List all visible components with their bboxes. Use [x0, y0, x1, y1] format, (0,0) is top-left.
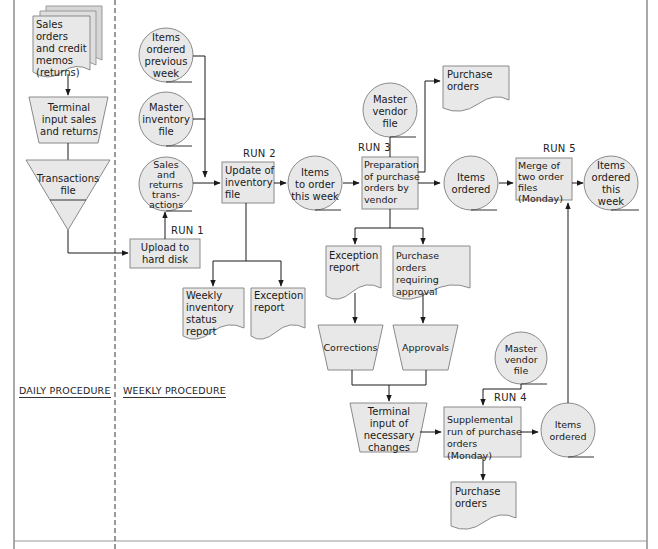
daily-procedure-heading: DAILY PROCEDURE [19, 385, 111, 398]
label-line: input of [352, 418, 426, 430]
label-line: Items [584, 160, 638, 172]
label-line: and credit [36, 43, 92, 55]
label-line: orders [447, 81, 507, 93]
exception-report-1-label: Exception report [254, 290, 308, 314]
label-line: Items [288, 167, 342, 179]
run-1-label: RUN 1 [171, 225, 204, 236]
label-line: vendor [364, 194, 420, 206]
label-line: input sales [32, 114, 106, 126]
label-line: status report [186, 314, 246, 338]
label-line: orders by [364, 182, 420, 194]
label-line: file [363, 118, 417, 130]
label-line: Terminal [352, 406, 426, 418]
label-line: necessary [352, 430, 426, 442]
label-line: to order [288, 179, 342, 191]
purchase-orders-approval-label: Purchase orders requiring approval [396, 250, 472, 298]
label-line: changes [352, 442, 426, 454]
label-line: vendor [494, 354, 548, 365]
label-line: of purchase [364, 171, 420, 183]
label-line: Weekly [186, 290, 246, 302]
label-line: file [494, 365, 548, 376]
label-line: ordered [584, 172, 638, 184]
label-line: approval [396, 286, 472, 298]
label-line: file [28, 185, 108, 197]
label-line: memos [36, 55, 92, 67]
label-line: Exception [329, 250, 383, 262]
label-line: and returns [32, 126, 106, 138]
supplemental-label: Supplemental run of purchase orders (Mon… [447, 414, 525, 462]
label-line: Items [541, 419, 595, 431]
flow-arrow [418, 81, 440, 172]
label-line: inventory [186, 302, 246, 314]
weekly-procedure-heading: WEEKLY PROCEDURE [123, 385, 226, 398]
label-line: vendor [363, 106, 417, 118]
flow-arrow [213, 261, 246, 286]
items-ordered-2-label: Items ordered [541, 419, 595, 443]
label-line: file [139, 126, 193, 138]
label-line: Sales orders [36, 19, 92, 43]
label-line: inventory [225, 177, 275, 189]
label-line: ordered [541, 431, 595, 443]
items-to-order-label: Items to order this week [288, 167, 342, 203]
master-vendor-file-1-label: Master vendor file [363, 94, 417, 130]
label-line: inventory [139, 114, 193, 126]
label-line: files [518, 182, 574, 193]
flow-arrow [246, 261, 281, 286]
sales-returns-transactions-label: Sales and returns trans- actions [139, 160, 193, 210]
label-line: orders [455, 498, 515, 510]
corrections-label: Corrections [318, 342, 383, 354]
flow-line [352, 370, 426, 385]
label-line: two order [518, 171, 574, 182]
label-line: Master [494, 343, 548, 354]
label-line: Items [444, 172, 498, 184]
master-inventory-file-label: Master inventory file [139, 102, 193, 138]
label-line: orders requiring [396, 262, 472, 286]
label-line: Purchase [447, 69, 507, 81]
purchase-orders-bottom-label: Purchase orders [455, 486, 515, 510]
purchase-orders-top-label: Purchase orders [447, 69, 507, 93]
items-ordered-this-week-label: Items ordered this week [584, 160, 638, 208]
label-line: Master [363, 94, 417, 106]
flow-arrow [68, 230, 128, 253]
label-line: this [584, 184, 638, 196]
approvals-label: Approvals [393, 342, 458, 354]
label-line: Update of [225, 165, 275, 177]
label-line: report [329, 262, 383, 274]
label-line: (Monday) [518, 193, 574, 204]
merge-label: Merge of two order files (Monday) [518, 160, 574, 204]
weekly-inventory-report-label: Weekly inventory status report [186, 290, 246, 338]
run-4-label: RUN 4 [494, 392, 527, 403]
flowchart-canvas [0, 0, 658, 549]
preparation-po-label: Preparation of purchase orders by vendor [364, 159, 420, 205]
items-ordered-previous-week-label: Items ordered previous week [139, 32, 193, 80]
label-line: Preparation [364, 159, 420, 171]
terminal-input-sales-label: Terminal input sales and returns [32, 102, 106, 138]
flow-arrow [390, 228, 423, 244]
label-line: week [139, 68, 193, 80]
label-line: run of purchase [447, 426, 525, 438]
exception-report-2-label: Exception report [329, 250, 383, 274]
terminal-input-changes-label: Terminal input of necessary changes [352, 406, 426, 454]
sales-orders-label: Sales orders and credit memos (returns) [36, 19, 92, 79]
label-line: Terminal [32, 102, 106, 114]
run-3-label: RUN 3 [358, 142, 391, 153]
label-line: Purchase [396, 250, 472, 262]
label-line: file [225, 189, 275, 201]
label-line: Master [139, 102, 193, 114]
label-line: Exception [254, 290, 308, 302]
label-line: hard disk [132, 254, 198, 266]
flow-arrow [355, 228, 390, 244]
label-line: report [254, 302, 308, 314]
label-line: Supplemental [447, 414, 525, 426]
label-line: actions [139, 200, 193, 210]
label-line: week [584, 196, 638, 208]
label-line: Upload to [132, 242, 198, 254]
update-inventory-label: Update of inventory file [225, 165, 275, 201]
label-line: this week [288, 191, 342, 203]
run-2-label: RUN 2 [243, 148, 276, 159]
label-line: ordered [139, 44, 193, 56]
label-line: Purchase [455, 486, 515, 498]
label-line: Merge of [518, 160, 574, 171]
label-line: previous [139, 56, 193, 68]
run-5-label: RUN 5 [543, 143, 576, 154]
